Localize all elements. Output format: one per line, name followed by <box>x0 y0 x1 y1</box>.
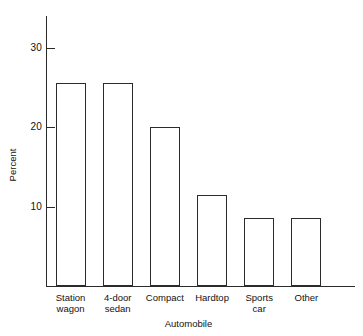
bar <box>197 195 227 286</box>
x-axis-title: Automobile <box>71 318 307 329</box>
y-axis-title: Percent <box>8 135 18 195</box>
bar <box>103 83 133 286</box>
y-axis-tick-label-wrap: 30 <box>0 43 42 53</box>
y-axis-tick-label: 10 <box>2 202 42 212</box>
y-axis-tick-label-wrap: 10 <box>0 202 42 212</box>
bar <box>244 218 274 286</box>
bar <box>150 127 180 286</box>
y-axis-tick-label: 20 <box>2 122 42 132</box>
bar <box>291 218 321 286</box>
y-axis-tick-label-wrap: 20 <box>0 122 42 132</box>
x-axis-line <box>46 286 355 287</box>
y-axis-tick-label: 30 <box>2 43 42 53</box>
bar-chart: Percent 102030 Station wagon4-door sedan… <box>0 0 363 336</box>
bar <box>56 83 86 286</box>
x-axis-category-label: Other <box>277 292 335 303</box>
plot-area <box>46 16 355 286</box>
